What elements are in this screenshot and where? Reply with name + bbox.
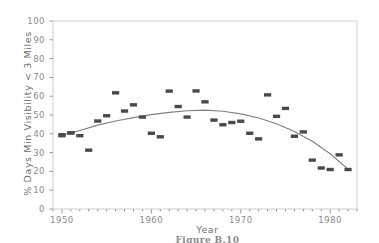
data-point bbox=[282, 107, 289, 110]
x-tick-label-1960: 1960 bbox=[131, 215, 171, 225]
data-point bbox=[192, 89, 199, 92]
y-tick-label-20: 20 bbox=[19, 166, 45, 176]
y-tick-label-0: 0 bbox=[19, 204, 45, 214]
data-point bbox=[336, 153, 343, 156]
data-point bbox=[327, 168, 334, 171]
data-point bbox=[103, 114, 110, 117]
x-tick-label-1970: 1970 bbox=[221, 215, 261, 225]
y-tick-label-30: 30 bbox=[19, 148, 45, 158]
data-point bbox=[300, 130, 307, 133]
y-tick-label-90: 90 bbox=[19, 35, 45, 45]
data-point bbox=[148, 132, 155, 135]
data-point bbox=[246, 132, 253, 135]
y-tick-label-100: 100 bbox=[19, 16, 45, 26]
data-point bbox=[130, 103, 137, 106]
y-tick-label-70: 70 bbox=[19, 72, 45, 82]
scatter-plot bbox=[0, 0, 379, 243]
figure-container: % Days Min Visibility < 3 Miles Year Fig… bbox=[0, 0, 379, 243]
y-tick-label-80: 80 bbox=[19, 54, 45, 64]
data-point bbox=[166, 89, 173, 92]
x-tick-label-1950: 1950 bbox=[42, 215, 82, 225]
data-point bbox=[255, 137, 262, 140]
data-point bbox=[264, 93, 271, 96]
data-point bbox=[237, 120, 244, 123]
data-point bbox=[219, 123, 226, 126]
data-point bbox=[291, 135, 298, 138]
data-point bbox=[344, 168, 351, 171]
data-point bbox=[76, 134, 83, 137]
data-point bbox=[210, 118, 217, 121]
trend-curve bbox=[62, 110, 348, 169]
data-point bbox=[175, 105, 182, 108]
data-point bbox=[318, 166, 325, 169]
data-point bbox=[201, 100, 208, 103]
data-point bbox=[184, 115, 191, 118]
data-point bbox=[157, 135, 164, 138]
data-point bbox=[58, 134, 65, 137]
data-point bbox=[67, 131, 74, 134]
y-tick-label-10: 10 bbox=[19, 185, 45, 195]
data-point bbox=[273, 115, 280, 118]
data-point bbox=[94, 119, 101, 122]
data-point bbox=[228, 121, 235, 124]
y-tick-label-50: 50 bbox=[19, 110, 45, 120]
x-tick-label-1980: 1980 bbox=[310, 215, 350, 225]
data-point bbox=[112, 91, 119, 94]
y-tick-label-60: 60 bbox=[19, 91, 45, 101]
plot-frame bbox=[53, 21, 357, 209]
data-point bbox=[121, 109, 128, 112]
y-tick-label-40: 40 bbox=[19, 129, 45, 139]
data-point bbox=[85, 148, 92, 151]
data-point bbox=[309, 158, 316, 161]
data-point bbox=[139, 115, 146, 118]
